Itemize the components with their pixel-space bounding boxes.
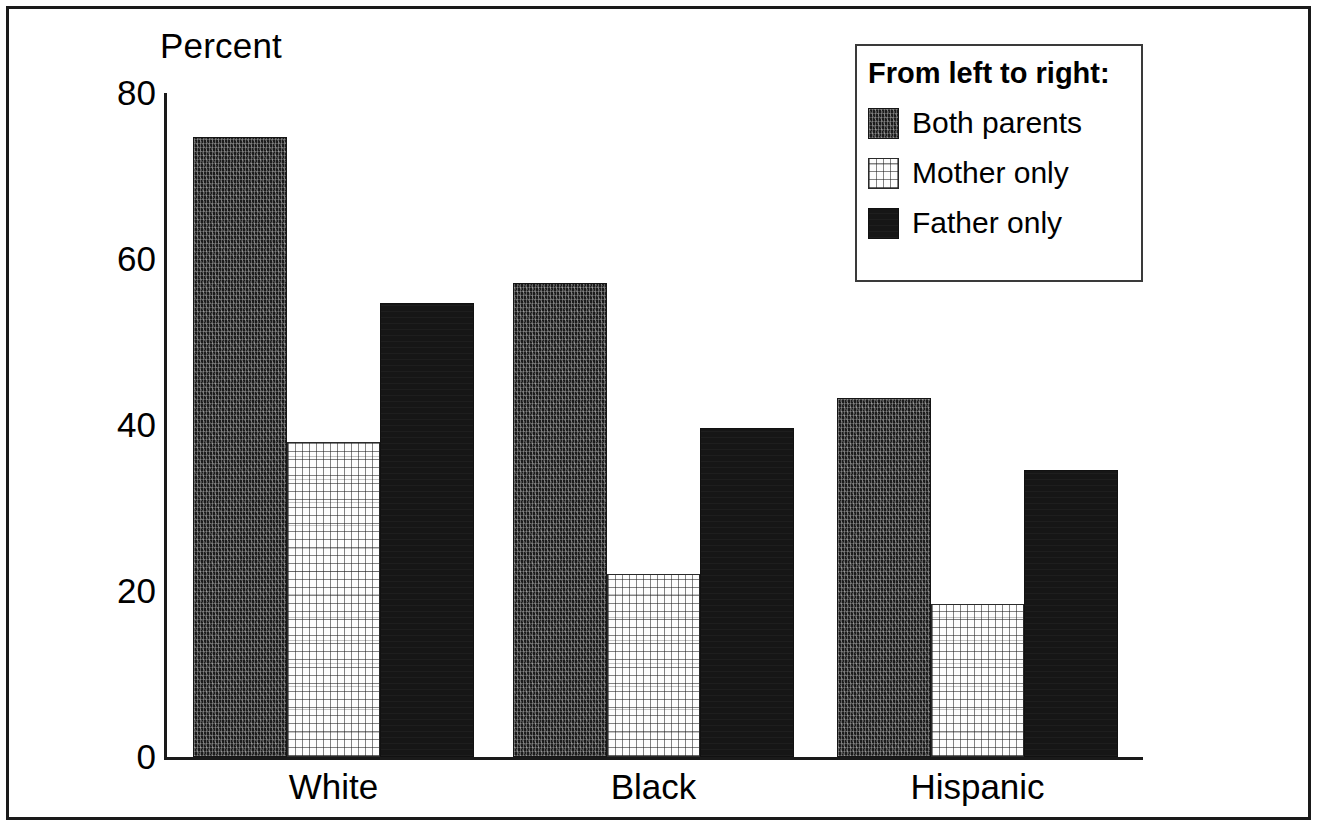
y-tick-label-40: 40: [94, 407, 156, 442]
legend-title: From left to right:: [868, 57, 1141, 90]
x-axis-line: [164, 757, 1143, 760]
y-tick-label-80: 80: [94, 75, 156, 110]
y-axis-title: Percent: [160, 26, 282, 66]
plot-area: Percent 80 60 40 20 0 White Black Hispan: [0, 0, 1319, 832]
chart-legend: From left to right: Both parents Mother …: [855, 44, 1143, 282]
bar-black-both-parents: [513, 283, 607, 757]
y-axis-line: [164, 93, 167, 757]
y-tick-label-60: 60: [94, 241, 156, 276]
legend-swatch-father-only-icon: [868, 208, 899, 239]
bar-hispanic-both-parents: [837, 398, 931, 757]
y-tick-label-0: 0: [94, 739, 156, 774]
bar-black-father-only: [700, 428, 794, 757]
x-category-label-white: White: [193, 767, 474, 807]
legend-label-mother-only: Mother only: [912, 158, 1069, 188]
chart-figure: Percent 80 60 40 20 0 White Black Hispan: [0, 0, 1319, 832]
y-tick-label-20: 20: [94, 573, 156, 608]
bar-hispanic-mother-only: [931, 604, 1024, 757]
x-category-label-black: Black: [513, 767, 794, 807]
legend-swatch-mother-only-icon: [868, 158, 899, 189]
legend-item-mother-only: Mother only: [868, 148, 1141, 198]
x-category-label-hispanic: Hispanic: [837, 767, 1118, 807]
bar-hispanic-father-only: [1024, 470, 1118, 757]
bar-group-white: [193, 93, 474, 757]
bar-white-both-parents: [193, 137, 287, 757]
legend-label-father-only: Father only: [912, 208, 1062, 238]
bar-white-mother-only: [287, 442, 380, 757]
legend-label-both-parents: Both parents: [912, 108, 1082, 138]
bar-white-father-only: [380, 303, 474, 757]
legend-swatch-both-parents-icon: [868, 108, 899, 139]
legend-item-father-only: Father only: [868, 198, 1141, 248]
bar-black-mother-only: [607, 574, 700, 757]
bar-group-black: [513, 93, 794, 757]
legend-item-both-parents: Both parents: [868, 98, 1141, 148]
